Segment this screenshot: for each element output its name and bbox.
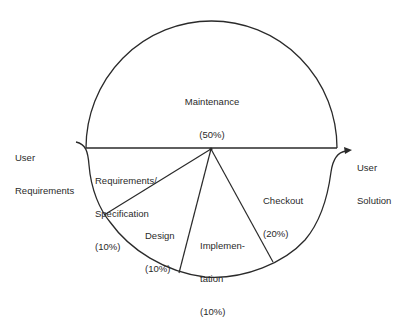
design-label: Design (10%): [145, 208, 175, 285]
user-requirements-label: User Requirements: [15, 130, 74, 207]
user-requirements-line2: Requirements: [15, 185, 74, 196]
maintenance-name: Maintenance: [170, 96, 254, 107]
checkout-pct: (20%): [263, 228, 303, 239]
maintenance-pct: (50%): [170, 129, 254, 140]
user-solution-line1: User: [357, 162, 391, 173]
maintenance-label: Maintenance (50%): [170, 74, 254, 151]
implementation-label: Implemen- tation (10%): [200, 218, 245, 321]
requirements-name-1: Requirements/: [95, 175, 157, 186]
arrow-head-icon: [344, 147, 352, 154]
user-solution-line2: Solution: [357, 195, 391, 206]
user-solution-label: User Solution: [357, 140, 391, 217]
design-name: Design: [145, 230, 175, 241]
implementation-name-1: Implemen-: [200, 240, 245, 251]
implementation-name-2: tation: [200, 273, 245, 284]
user-requirements-line1: User: [15, 152, 74, 163]
checkout-label: Checkout (20%): [263, 173, 303, 250]
implementation-pct: (10%): [200, 306, 245, 317]
design-pct: (10%): [145, 263, 175, 274]
checkout-name: Checkout: [263, 195, 303, 206]
